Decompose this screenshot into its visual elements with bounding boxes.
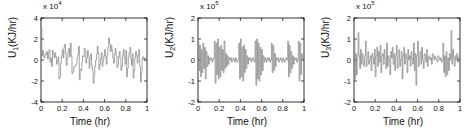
data-series-line xyxy=(198,39,304,85)
y-tick-label: -4 xyxy=(31,98,38,107)
x-tick-label: 0.2 xyxy=(370,104,380,113)
y-tick-label: -2 xyxy=(31,77,38,86)
figure-panel: 00.20.40.60.81420-2-4 x 104 U1(KJ/hr) Ti… xyxy=(0,0,473,135)
x-tick-label: 1 xyxy=(145,104,149,113)
x-tick-label: 0.6 xyxy=(412,104,422,113)
x-tick-label: 0.4 xyxy=(78,104,88,113)
subplot-u3: 00.20.40.60.81210-1-2 x 105 U3(KJ/hr) Ti… xyxy=(313,0,471,135)
exponent-label-u1: x 104 xyxy=(43,2,61,11)
subplot-u2: 00.20.40.60.81210-1-2 x 105 U2(KJ/hr) Ti… xyxy=(157,0,315,135)
y-axis-label-u3: U3(KJ/hr) xyxy=(320,2,331,74)
x-tick-label: 0.8 xyxy=(121,104,131,113)
x-tick-label: 0.2 xyxy=(57,104,67,113)
y-tick-label: 2 xyxy=(191,14,195,23)
y-tick-label: 0 xyxy=(34,56,38,65)
x-axis-label-u3: Time (hr) xyxy=(348,116,458,127)
x-tick-label: 0 xyxy=(352,104,356,113)
y-tick-label: -2 xyxy=(344,98,351,107)
y-tick-label: 1 xyxy=(191,35,195,44)
y-tick-label: -2 xyxy=(188,98,195,107)
subplot-u1: 00.20.40.60.81420-2-4 x 104 U1(KJ/hr) Ti… xyxy=(0,0,158,135)
x-tick-label: 0 xyxy=(196,104,200,113)
y-tick-label: 0 xyxy=(191,56,195,65)
y-axis-label-u2: U2(KJ/hr) xyxy=(164,2,175,74)
x-tick-label: 0 xyxy=(39,104,43,113)
y-tick-label: 2 xyxy=(34,35,38,44)
subplot-u3-axes: 00.20.40.60.81210-1-2 xyxy=(313,0,471,135)
data-series-line xyxy=(354,31,460,86)
x-tick-label: 0.8 xyxy=(278,104,288,113)
y-tick-label: 2 xyxy=(347,14,351,23)
x-axis-label-u1: Time (hr) xyxy=(35,116,145,127)
x-tick-label: 0.4 xyxy=(391,104,401,113)
y-tick-label: 1 xyxy=(347,35,351,44)
x-tick-label: 1 xyxy=(458,104,462,113)
x-tick-label: 1 xyxy=(302,104,306,113)
y-tick-label: -1 xyxy=(344,77,351,86)
x-axis-label-u2: Time (hr) xyxy=(192,116,302,127)
y-tick-label: -1 xyxy=(188,77,195,86)
y-tick-label: 4 xyxy=(34,14,38,23)
x-tick-label: 0.4 xyxy=(235,104,245,113)
subplot-u1-axes: 00.20.40.60.81420-2-4 xyxy=(0,0,158,135)
y-axis-label-u1: U1(KJ/hr) xyxy=(7,2,18,74)
exponent-label-u2: x 105 xyxy=(200,2,218,11)
exponent-label-u3: x 105 xyxy=(356,2,374,11)
x-tick-label: 0.6 xyxy=(99,104,109,113)
data-series-line xyxy=(41,27,147,83)
x-tick-label: 0.6 xyxy=(256,104,266,113)
x-tick-label: 0.2 xyxy=(214,104,224,113)
y-tick-label: 0 xyxy=(347,56,351,65)
x-tick-label: 0.8 xyxy=(434,104,444,113)
subplot-u2-axes: 00.20.40.60.81210-1-2 xyxy=(157,0,315,135)
